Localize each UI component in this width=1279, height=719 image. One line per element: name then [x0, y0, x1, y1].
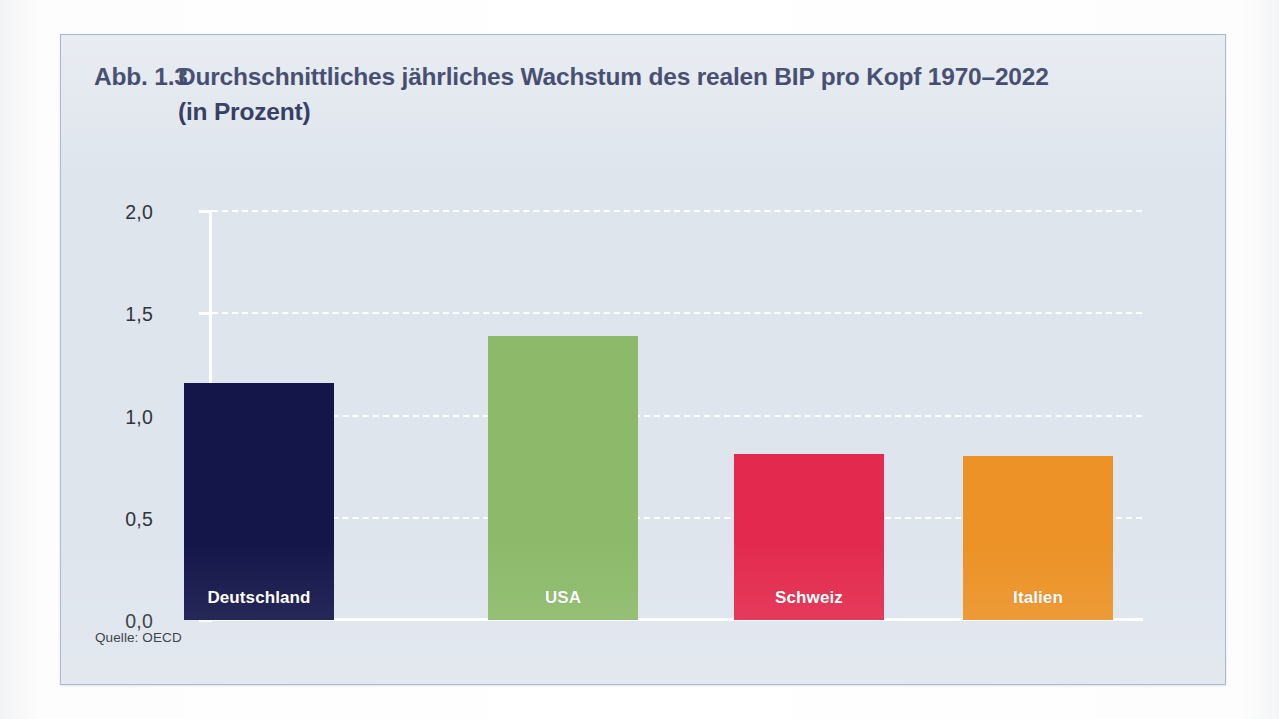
gridline-2-0	[212, 210, 1142, 212]
page-background: Abb. 1.3Durchschnittliches jährliches Wa…	[0, 0, 1279, 719]
figure-panel: Abb. 1.3Durchschnittliches jährliches Wa…	[60, 34, 1226, 685]
bar-label-usa: USA	[488, 588, 638, 608]
y-axis-label-2-0: 2,0	[83, 201, 153, 224]
bar-label-italien: Italien	[963, 588, 1113, 608]
bar-usa[interactable]: USA	[488, 336, 638, 620]
gridline-1-0	[212, 415, 1142, 417]
bar-schweiz[interactable]: Schweiz	[734, 454, 884, 620]
bar-deutschland[interactable]: Deutschland	[184, 383, 334, 620]
y-axis-tick-1-5	[199, 312, 212, 315]
bar-label-deutschland: Deutschland	[184, 588, 334, 608]
bar-label-schweiz: Schweiz	[734, 588, 884, 608]
plot-area: 0,00,51,01,52,0DeutschlandUSASchweizItal…	[61, 35, 1227, 686]
source-note: Quelle: OECD	[95, 630, 182, 645]
bar-italien[interactable]: Italien	[963, 456, 1113, 620]
y-axis-label-1-0: 1,0	[83, 406, 153, 429]
y-axis-label-0-5: 0,5	[83, 508, 153, 531]
y-axis-tick-2-0	[199, 210, 212, 213]
gridline-1-5	[212, 312, 1142, 314]
y-axis-label-1-5: 1,5	[83, 303, 153, 326]
